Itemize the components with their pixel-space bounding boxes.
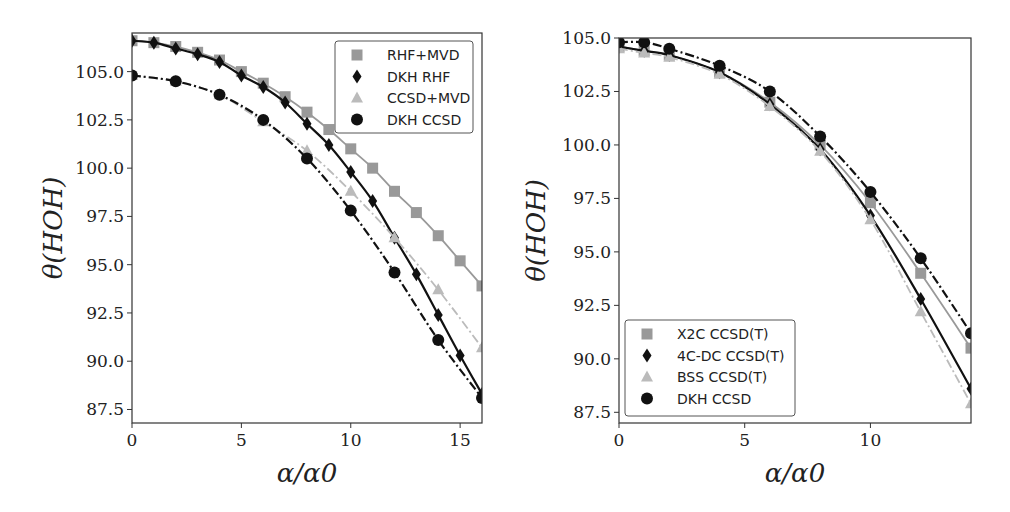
x-tick-label: 5 [236,430,247,450]
legend-circle-icon [641,393,653,405]
legend-label: DKH CCSD [387,112,461,128]
legend-label: 4C-DC CCSD(T) [677,348,784,364]
x-axis-label: α/α0 [765,458,825,488]
y-tick-label: 97.5 [86,206,124,226]
y-tick-label: 90.0 [573,349,611,369]
circle-marker [915,252,927,264]
circle-marker [814,130,826,142]
circle-marker [432,334,444,346]
legend-label: RHF+MVD [387,47,459,63]
series-line-dkh-ccsd [619,42,971,333]
triangle-marker [345,185,357,196]
y-tick-label: 87.5 [86,399,124,419]
y-tick-label: 105.0 [562,28,611,48]
legend: X2C CCSD(T)4C-DC CCSD(T)BSS CCSD(T)DKH C… [625,320,795,416]
left-chart: 05101587.590.092.595.097.5100.0102.5105.… [38,33,488,488]
x-tick-label: 10 [860,430,882,450]
square-marker [455,255,466,266]
square-marker [302,107,313,118]
y-tick-label: 102.5 [562,81,611,101]
square-marker [323,124,334,135]
legend-label: X2C CCSD(T) [677,326,768,342]
square-marker [345,143,356,154]
y-tick-label: 90.0 [86,351,124,371]
series-line-x2c-ccsd-t- [619,47,971,349]
circle-marker [257,114,269,126]
circle-marker [214,89,226,101]
legend-square-icon [352,50,363,61]
x-tick-label: 5 [739,430,750,450]
y-tick-label: 92.5 [573,295,611,315]
y-axis-label: θ(HOH) [521,179,551,282]
legend-label: CCSD+MVD [387,90,470,106]
circle-marker [301,152,313,164]
y-tick-label: 95.0 [573,242,611,262]
y-tick-label: 87.5 [573,402,611,422]
circle-marker [714,60,726,72]
circle-marker [170,75,182,87]
legend-square-icon [642,329,653,340]
y-tick-label: 100.0 [75,158,124,178]
y-tick-label: 102.5 [75,110,124,130]
circle-marker [389,266,401,278]
y-tick-label: 100.0 [562,135,611,155]
square-marker [367,163,378,174]
x-axis-label: α/α0 [277,458,337,488]
y-tick-label: 97.5 [573,188,611,208]
y-tick-label: 105.0 [75,62,124,82]
circle-marker [764,85,776,97]
figure-canvas: 05101587.590.092.595.097.5100.0102.5105.… [0,0,1010,512]
x-tick-label: 0 [614,430,625,450]
square-marker [433,230,444,241]
y-axis-label: θ(HOH) [38,177,68,280]
x-tick-label: 15 [449,430,471,450]
legend-label: BSS CCSD(T) [677,369,767,385]
right-chart: 051087.590.092.595.097.5100.0102.5105.0α… [521,28,977,488]
square-marker [389,186,400,197]
triangle-marker [864,213,876,224]
square-marker [915,268,926,279]
x-tick-label: 0 [127,430,138,450]
y-tick-label: 92.5 [86,303,124,323]
x-tick-label: 10 [340,430,362,450]
legend-circle-icon [351,114,363,126]
circle-marker [345,205,357,217]
square-marker [411,207,422,218]
legend-label: DKH RHF [387,69,450,85]
y-tick-label: 95.0 [86,255,124,275]
legend-label: DKH CCSD [677,391,751,407]
square-marker [865,197,876,208]
circle-marker [663,43,675,55]
diamond-marker [303,117,312,131]
legend: RHF+MVDDKH RHFCCSD+MVDDKH CCSD [335,41,473,133]
circle-marker [864,186,876,198]
